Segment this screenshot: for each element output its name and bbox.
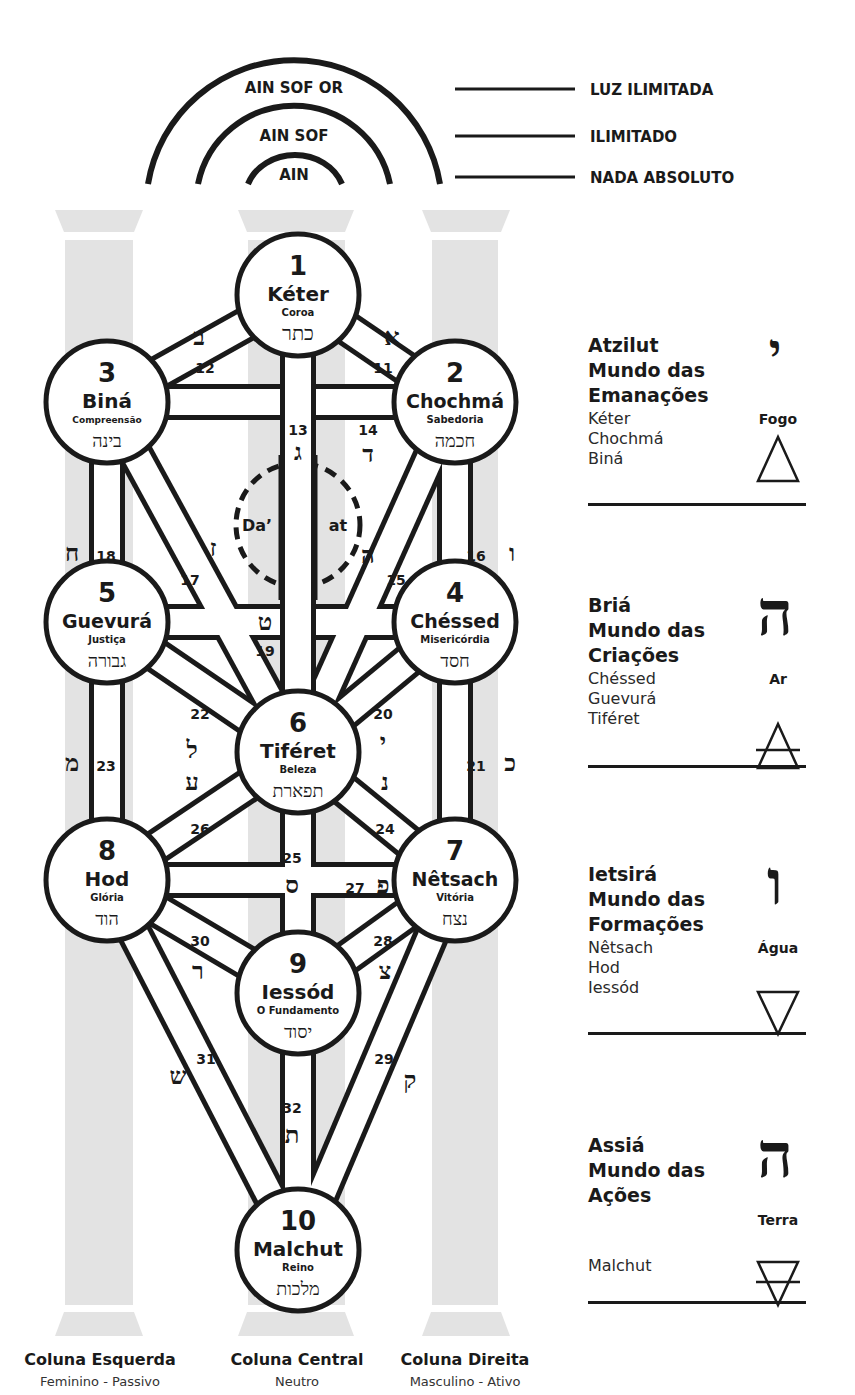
path-letter-25: ס bbox=[285, 870, 299, 899]
svg-text:6: 6 bbox=[289, 708, 307, 738]
column-label-right: Coluna Direita Masculino - Ativo bbox=[380, 1350, 550, 1392]
hebrew-letter-he-icon: ה bbox=[750, 1119, 800, 1192]
svg-text:10: 10 bbox=[280, 1206, 316, 1236]
sefirah-keter: 1 Kéter Coroa כתר bbox=[237, 234, 359, 356]
path-number-22: 22 bbox=[190, 706, 209, 722]
svg-text:3: 3 bbox=[98, 358, 116, 388]
divider bbox=[588, 765, 806, 768]
sefirah-iessod: 9 Iessód O Fundamento יסוד bbox=[237, 932, 359, 1054]
sefirah-guevura: 5 Guevurá Justiça גבורה bbox=[46, 561, 168, 683]
path-letter-19: ט bbox=[258, 607, 273, 636]
path-letter-22: ל bbox=[185, 735, 197, 764]
svg-text:5: 5 bbox=[98, 578, 116, 608]
path-number-31: 31 bbox=[196, 1051, 215, 1067]
path-number-11: 11 bbox=[373, 360, 392, 376]
path-number-19: 19 bbox=[255, 643, 274, 659]
svg-text:Chéssed: Chéssed bbox=[410, 610, 499, 632]
column-label-left: Coluna Esquerda Feminino - Passivo bbox=[15, 1350, 185, 1392]
element-label: Ar bbox=[748, 671, 808, 687]
svg-text:בינה: בינה bbox=[92, 430, 122, 451]
path-letter-16: ו bbox=[509, 538, 515, 567]
path-number-17: 17 bbox=[180, 572, 199, 588]
path-number-13: 13 bbox=[288, 422, 307, 438]
svg-text:4: 4 bbox=[446, 578, 464, 608]
center-pillar-capital bbox=[238, 210, 354, 232]
path-number-23: 23 bbox=[96, 758, 115, 774]
sefirah-malchut: 10 Malchut Reino מלכות bbox=[237, 1189, 359, 1311]
arc-label-ain-sof-or: AIN SOF OR bbox=[245, 79, 344, 97]
column-label-center: Coluna Central Neutro bbox=[212, 1350, 382, 1392]
sefirah-chochma: 2 Chochmá Sabedoria חכמה bbox=[394, 341, 516, 463]
svg-text:חכמה: חכמה bbox=[435, 430, 475, 451]
svg-text:Malchut: Malchut bbox=[253, 1237, 344, 1261]
path-number-20: 20 bbox=[373, 706, 393, 722]
svg-text:Tiféret: Tiféret bbox=[260, 739, 336, 763]
center-pillar-base bbox=[238, 1312, 354, 1336]
path-letter-14: ד bbox=[362, 439, 374, 468]
daat-label-right: at bbox=[329, 516, 348, 535]
svg-text:מלכות: מלכות bbox=[276, 1278, 319, 1299]
divider bbox=[588, 1301, 806, 1304]
path-number-15: 15 bbox=[386, 572, 405, 588]
sefirah-tiferet: 6 Tiféret Beleza תפארת bbox=[237, 691, 359, 813]
svg-text:1: 1 bbox=[289, 251, 307, 281]
svg-text:תפארת: תפארת bbox=[272, 780, 323, 801]
world-sefirot: Malchut bbox=[588, 1256, 808, 1276]
world-assia: Assiá Mundo das Ações Malchut ה Terra bbox=[588, 1133, 808, 1313]
world-bria: Briá Mundo das Criações Chéssed Guevurá … bbox=[588, 593, 808, 773]
svg-text:Sabedoria: Sabedoria bbox=[426, 414, 483, 425]
svg-text:כתר: כתר bbox=[282, 321, 314, 345]
svg-text:Kéter: Kéter bbox=[267, 282, 329, 306]
svg-text:הוד: הוד bbox=[95, 908, 119, 929]
path-letter-11: א bbox=[384, 322, 399, 351]
svg-text:Nêtsach: Nêtsach bbox=[412, 868, 499, 890]
sefirah-hod: 8 Hod Glória הוד bbox=[46, 819, 168, 941]
path-number-27: 27 bbox=[345, 880, 364, 896]
svg-text:Justiça: Justiça bbox=[87, 634, 126, 645]
path-number-25: 25 bbox=[282, 850, 301, 866]
svg-text:9: 9 bbox=[289, 949, 307, 979]
path-letter-26: ע bbox=[185, 767, 199, 796]
arc-label-ain-sof: AIN SOF bbox=[260, 127, 329, 145]
path-letter-23: מ bbox=[65, 748, 79, 777]
svg-text:Chochmá: Chochmá bbox=[406, 390, 504, 412]
path-number-24: 24 bbox=[375, 821, 395, 837]
path-letter-18: ח bbox=[65, 538, 79, 567]
svg-text:Beleza: Beleza bbox=[279, 764, 316, 775]
svg-text:Glória: Glória bbox=[90, 892, 124, 903]
path-number-29: 29 bbox=[374, 1051, 393, 1067]
left-pillar-base bbox=[55, 1312, 143, 1336]
svg-text:Compreensão: Compreensão bbox=[72, 415, 141, 425]
path-letter-24: נ bbox=[381, 767, 389, 796]
divider bbox=[588, 1032, 806, 1035]
svg-text:Vitória: Vitória bbox=[436, 892, 474, 903]
path-number-28: 28 bbox=[373, 933, 392, 949]
element-label: Terra bbox=[748, 1212, 808, 1228]
svg-text:Guevurá: Guevurá bbox=[62, 610, 152, 632]
path-number-21: 21 bbox=[466, 758, 485, 774]
right-pillar-capital bbox=[422, 210, 510, 232]
svg-text:גבורה: גבורה bbox=[88, 650, 126, 671]
svg-text:Reino: Reino bbox=[282, 1262, 314, 1273]
path-number-30: 30 bbox=[190, 933, 210, 949]
path-letter-13: ג bbox=[294, 437, 302, 466]
world-ietsira: Ietsirá Mundo das Formações Nêtsach Hod … bbox=[588, 862, 808, 1042]
path-letter-31: ש bbox=[170, 1061, 187, 1090]
svg-text:חסד: חסד bbox=[440, 650, 470, 671]
world-atzilut: Atzilut Mundo das Emanações Kéter Chochm… bbox=[588, 333, 808, 513]
sefirah-bina: 3 Biná Compreensão בינה bbox=[46, 341, 168, 463]
sefirah-netsach: 7 Nêtsach Vitória נצח bbox=[394, 819, 516, 941]
svg-text:Biná: Biná bbox=[82, 389, 132, 413]
path-letter-21: כ bbox=[504, 748, 516, 777]
svg-text:8: 8 bbox=[98, 836, 116, 866]
path-number-32: 32 bbox=[282, 1100, 301, 1116]
sefirah-chessed: 4 Chéssed Misericórdia חסד bbox=[394, 561, 516, 683]
path-letter-27: פ bbox=[376, 870, 389, 899]
svg-text:Misericórdia: Misericórdia bbox=[420, 634, 490, 645]
daat-label-left: Da’ bbox=[242, 516, 272, 535]
path-number-12: 12 bbox=[195, 360, 214, 376]
svg-text:Hod: Hod bbox=[85, 867, 130, 891]
ain-meaning-nada: NADA ABSOLUTO bbox=[590, 169, 734, 187]
svg-text:יסוד: יסוד bbox=[284, 1021, 312, 1042]
element-label: Água bbox=[748, 940, 808, 956]
